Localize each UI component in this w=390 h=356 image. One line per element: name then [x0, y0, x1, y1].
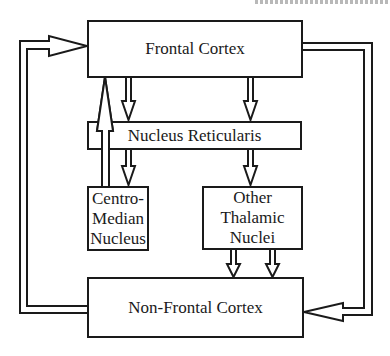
brain-circuit-diagram: Frontal Cortex Nucleus Reticularis Centr… — [0, 0, 390, 356]
arrow-overlay — [0, 0, 390, 356]
centro-to-frontal-arrow-overlay — [97, 77, 113, 186]
